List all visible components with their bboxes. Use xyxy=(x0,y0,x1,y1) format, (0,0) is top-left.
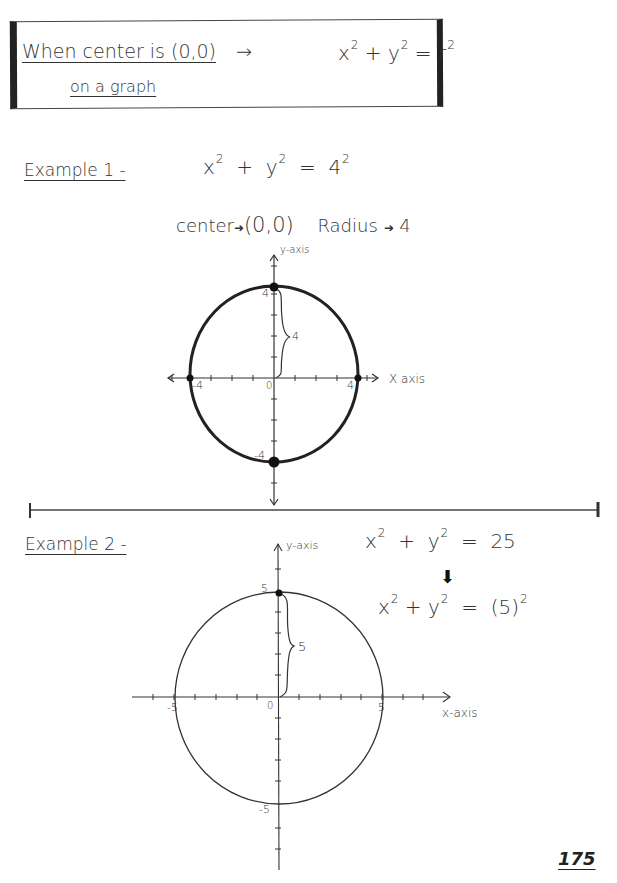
page-number: 175 xyxy=(558,848,596,869)
example-2-neg-x-label: -5 xyxy=(167,701,178,714)
example-2-pos-x-label: 5 xyxy=(378,701,385,714)
example-2-graph xyxy=(0,0,617,883)
example-2-pos-y-label: 5 xyxy=(261,582,268,595)
example-2-brace-label: 5 xyxy=(298,639,306,654)
example-2-y-axis-label: y-axis xyxy=(286,539,318,552)
example-2-x-axis-label: x-axis xyxy=(442,706,477,720)
example-2-neg-y-label: -5 xyxy=(259,803,270,816)
example-2-origin-label: 0 xyxy=(267,700,273,711)
